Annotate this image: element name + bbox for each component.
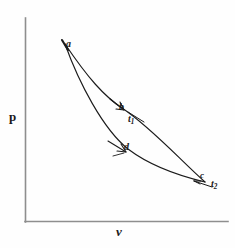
label-isotherm-t1: t1 bbox=[128, 114, 134, 126]
label-point-c: c bbox=[200, 171, 204, 180]
isotherm-t2-curve bbox=[65, 44, 205, 182]
axis-label-pressure: p bbox=[9, 110, 16, 123]
label-point-b: b bbox=[119, 102, 124, 112]
axes-group bbox=[25, 18, 228, 222]
isotherm-t1-curve bbox=[62, 40, 205, 182]
diagram-canvas bbox=[0, 0, 235, 248]
label-isotherm-t1-subscript: 1 bbox=[131, 118, 135, 126]
label-point-a: a bbox=[66, 39, 71, 49]
axis-label-volume: v bbox=[116, 225, 122, 238]
label-isotherm-t2: t2 bbox=[211, 179, 217, 191]
label-point-d: d bbox=[124, 142, 129, 152]
label-isotherm-t2-subscript: 2 bbox=[214, 183, 218, 191]
pv-diagram-figure: a b d c t1 t2 p v bbox=[0, 0, 235, 248]
